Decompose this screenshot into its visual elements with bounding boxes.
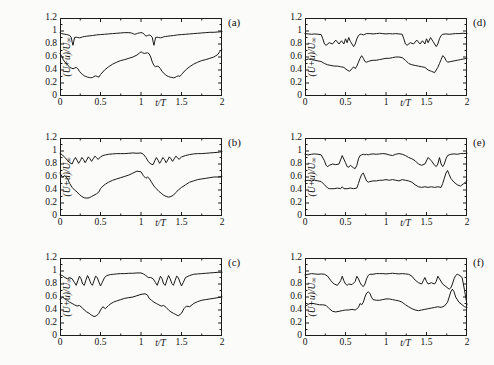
trace-upper-trace (60, 152, 222, 165)
y-axis-label-b: (U+u)/U∞ (62, 132, 73, 222)
y-tick-label: 1.2 (290, 13, 302, 23)
y-tick-label: 1 (297, 146, 302, 156)
y-tick-label: 0.8 (290, 159, 302, 169)
trace-lower-trace (305, 56, 467, 73)
y-tick-label: 0.6 (45, 172, 57, 182)
panel-a: (a) (U+u)/U∞ t/T 1.210.80.60.40.2000.511… (0, 0, 247, 120)
trace-upper-trace (60, 32, 222, 46)
x-axis-label-d: t/T (400, 98, 411, 108)
y-tick-label: 0 (297, 331, 302, 341)
panel-d: (d) (U+u)/U∞ t/T 1.210.80.60.40.2000.511… (247, 0, 494, 120)
x-tick-label: 2 (465, 338, 470, 348)
x-tick-label: 0 (303, 98, 308, 108)
trace-lower-trace (60, 294, 222, 317)
y-tick-label: 0.8 (290, 279, 302, 289)
y-tick-label: 0.8 (45, 39, 57, 49)
x-tick-label: 1 (139, 98, 144, 108)
y-tick-label: 0.6 (45, 52, 57, 62)
y-tick-label: 0 (52, 91, 57, 101)
plot-area-c: (U+u)/U∞ t/T 1.210.80.60.40.2000.511.52 (60, 258, 222, 336)
x-tick-label: 1.5 (421, 98, 433, 108)
y-axis-label-f: (U+u)/U∞ (307, 252, 318, 342)
plot-area-d: (U+u)/U∞ t/T 1.210.80.60.40.2000.511.52 (305, 18, 467, 96)
y-tick-label: 0.6 (45, 292, 57, 302)
y-tick-label: 0.6 (290, 172, 302, 182)
y-tick-label: 0.8 (45, 279, 57, 289)
x-tick-label: 1.5 (176, 338, 188, 348)
plot-area-e: (U+u)/U∞ t/T 1.210.80.60.40.2000.511.52 (305, 138, 467, 216)
panel-label-c: (c) (228, 256, 240, 268)
y-tick-label: 0.2 (290, 198, 302, 208)
x-tick-label: 1.5 (176, 98, 188, 108)
x-tick-label: 2 (220, 218, 225, 228)
y-axis-label-c: (U+u)/U∞ (62, 252, 73, 342)
traces-f (305, 258, 467, 336)
x-tick-label: 2 (220, 338, 225, 348)
y-tick-label: 0.6 (290, 52, 302, 62)
panel-label-b: (b) (228, 136, 241, 148)
y-tick-label: 0.4 (290, 185, 302, 195)
y-tick-label: 0 (52, 211, 57, 221)
plot-area-a: (U+u)/U∞ t/T 1.210.80.60.40.2000.511.52 (60, 18, 222, 96)
traces-d (305, 18, 467, 96)
x-axis-label-b: t/T (155, 218, 166, 228)
panel-f: (f) (U+u)/U∞ t/T 1.210.80.60.40.2000.511… (247, 240, 494, 365)
y-tick-label: 1 (52, 26, 57, 36)
plot-area-b: (U+u)/U∞ t/T 1.210.80.60.40.2000.511.52 (60, 138, 222, 216)
x-tick-label: 0 (58, 338, 63, 348)
trace-lower-trace (60, 49, 222, 78)
x-tick-label: 1 (139, 338, 144, 348)
x-axis-label-c: t/T (155, 338, 166, 348)
x-tick-label: 0.5 (340, 218, 352, 228)
y-tick-label: 1 (297, 266, 302, 276)
y-tick-label: 0.8 (45, 159, 57, 169)
panel-b: (b) (U+u)/U∞ t/T 1.210.80.60.40.2000.511… (0, 120, 247, 240)
trace-lower-trace (305, 171, 467, 189)
y-tick-label: 0 (52, 331, 57, 341)
trace-upper-trace (305, 273, 467, 305)
y-tick-label: 1.2 (290, 253, 302, 263)
y-tick-label: 1.2 (45, 13, 57, 23)
y-tick-label: 0.2 (45, 318, 57, 328)
panel-e: (e) (U+u)/U∞ t/T 1.210.80.60.40.2000.511… (247, 120, 494, 240)
y-tick-label: 0.4 (45, 305, 57, 315)
figure-grid: (a) (U+u)/U∞ t/T 1.210.80.60.40.2000.511… (0, 0, 494, 365)
panel-label-d: (d) (473, 16, 486, 28)
x-tick-label: 1 (384, 98, 389, 108)
x-axis-label-f: t/T (400, 338, 411, 348)
y-axis-label-d: (U+u)/U∞ (307, 12, 318, 102)
y-tick-label: 0.4 (290, 305, 302, 315)
y-tick-label: 0.2 (290, 78, 302, 88)
x-tick-label: 2 (465, 98, 470, 108)
trace-upper-trace (305, 153, 467, 168)
panel-label-e: (e) (473, 136, 485, 148)
x-tick-label: 0 (303, 338, 308, 348)
x-tick-label: 0.5 (95, 98, 107, 108)
y-tick-label: 1 (52, 266, 57, 276)
trace-upper-trace (305, 33, 467, 46)
y-tick-label: 1.2 (45, 253, 57, 263)
y-axis-label-e: (U+u)/U∞ (307, 132, 318, 222)
x-tick-label: 0.5 (340, 338, 352, 348)
x-tick-label: 0 (58, 98, 63, 108)
x-tick-label: 1 (139, 218, 144, 228)
x-axis-label-a: t/T (155, 98, 166, 108)
traces-a (60, 18, 222, 96)
y-tick-label: 0.6 (290, 292, 302, 302)
y-tick-label: 1.2 (45, 133, 57, 143)
x-tick-label: 0 (303, 218, 308, 228)
x-tick-label: 1.5 (421, 218, 433, 228)
x-tick-label: 0 (58, 218, 63, 228)
x-tick-label: 2 (220, 98, 225, 108)
panel-c: (c) (U+u)/U∞ t/T 1.210.80.60.40.2000.511… (0, 240, 247, 365)
y-tick-label: 1 (297, 26, 302, 36)
trace-lower-trace (60, 171, 222, 198)
y-axis-label-a: (U+u)/U∞ (62, 12, 73, 102)
y-tick-label: 0 (297, 211, 302, 221)
plot-area-f: (U+u)/U∞ t/T 1.210.80.60.40.2000.511.52 (305, 258, 467, 336)
panel-label-a: (a) (228, 16, 240, 28)
x-tick-label: 0.5 (95, 218, 107, 228)
traces-b (60, 138, 222, 216)
trace-upper-trace (60, 272, 222, 286)
x-tick-label: 1 (384, 338, 389, 348)
